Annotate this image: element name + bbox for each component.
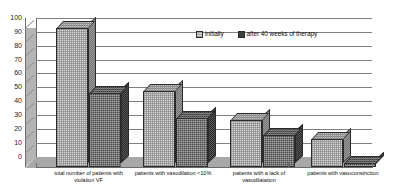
- y-tick-0: 0: [18, 153, 22, 160]
- bar-group-4-series-initially: [311, 139, 343, 167]
- chart-container: 100 90 80 70 60 50 40 30 20 10 0: [0, 0, 395, 193]
- y-tick-10: 10: [14, 139, 22, 146]
- bar-face: [263, 135, 295, 167]
- gridline-100: [36, 18, 372, 19]
- bar-face: [176, 118, 208, 167]
- bar-face: [230, 120, 262, 167]
- bar-group-2-series-after-40-weeks: [176, 118, 208, 167]
- y-tick-30: 30: [14, 111, 22, 118]
- x-category-label-4-line1: patients with vasoconstriction: [291, 170, 395, 177]
- bar-group-3-series-after-40-weeks: [263, 135, 295, 167]
- x-category-label-3-line2: vasodilatation: [209, 177, 309, 184]
- y-tick-70: 70: [14, 56, 22, 63]
- bar-group-2-series-initially: [143, 91, 175, 167]
- legend-swatch-icon-initially: [196, 31, 203, 38]
- bar-face: [56, 28, 88, 167]
- bar-face: [311, 139, 343, 167]
- bar-group-1-series-after-40-weeks: [89, 93, 121, 167]
- bar-face: [89, 93, 121, 167]
- y-tick-80: 80: [14, 42, 22, 49]
- legend-label-initially: initially: [205, 30, 224, 38]
- chart-legend: initially after 40 weeks of therapy: [196, 30, 317, 38]
- x-axis-category-labels: total number of patients with violation …: [25, 168, 385, 192]
- legend-swatch-icon-after-40-weeks: [238, 31, 245, 38]
- y-tick-100: 100: [10, 14, 22, 21]
- legend-label-after-40-weeks: after 40 weeks of therapy: [247, 30, 318, 38]
- legend-item-initially: initially: [196, 30, 224, 38]
- bar-face: [143, 91, 175, 167]
- y-axis-tick-labels: 100 90 80 70 60 50 40 30 20 10 0: [0, 0, 22, 193]
- y-tick-40: 40: [14, 97, 22, 104]
- x-category-label-4: patients with vasoconstriction: [291, 170, 395, 177]
- y-tick-20: 20: [14, 125, 22, 132]
- legend-item-after-40-weeks: after 40 weeks of therapy: [238, 30, 318, 38]
- y-tick-50: 50: [14, 83, 22, 90]
- y-tick-90: 90: [14, 28, 22, 35]
- x-category-label-1-line2: violation VF: [36, 177, 141, 184]
- bar-side: [121, 82, 129, 163]
- bar-group-3-series-initially: [230, 120, 262, 167]
- y-tick-60: 60: [14, 69, 22, 76]
- bar-group-1-series-initially: [56, 28, 88, 167]
